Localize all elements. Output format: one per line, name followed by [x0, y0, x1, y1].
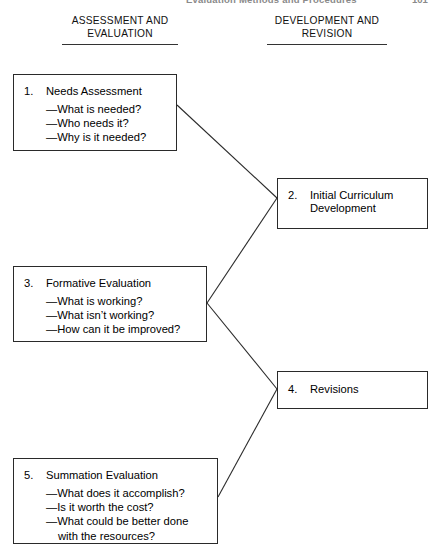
- node-bullet: —Is it worth the cost?: [46, 500, 209, 514]
- node-bullet-list: —What is working? —What isn’t working? —…: [24, 294, 198, 337]
- node-summation-evaluation: 5. Summation Evaluation —What does it ac…: [13, 458, 218, 544]
- node-bullet: —What could be better done: [46, 514, 209, 528]
- node-bullet: —What isn’t working?: [46, 308, 198, 322]
- column-header-assessment-evaluation: ASSESSMENT AND EVALUATION: [46, 14, 194, 45]
- node-heading: 4. Revisions: [288, 383, 421, 395]
- column-header-line-2: EVALUATION: [46, 27, 194, 40]
- column-header-line-2: REVISION: [252, 27, 402, 40]
- connector-formative-evaluation-to-revisions: [207, 303, 277, 389]
- node-bullet: —Who needs it?: [46, 116, 168, 130]
- node-title: Initial Curriculum: [310, 189, 421, 201]
- node-heading: 3. Formative Evaluation: [24, 276, 198, 291]
- column-header-development-revision: DEVELOPMENT AND REVISION: [252, 14, 402, 45]
- node-bullet-list: —What does it accomplish? —Is it worth t…: [24, 486, 209, 543]
- node-bullet-list: —What is needed? —Who needs it? —Why is …: [24, 102, 168, 145]
- node-heading: 2. Initial Curriculum: [288, 189, 421, 201]
- node-bullet: —What does it accomplish?: [46, 486, 209, 500]
- node-revisions: 4. Revisions: [277, 371, 428, 409]
- node-formative-evaluation: 3. Formative Evaluation —What is working…: [13, 266, 207, 342]
- running-head-page-number: 101: [412, 0, 428, 5]
- connector-formative-evaluation-to-initial-curriculum: [207, 198, 277, 303]
- diagram-page: Evaluation Methods and Procedures 101 AS…: [0, 0, 442, 544]
- node-bullet: —What is needed?: [46, 102, 168, 116]
- node-title: Needs Assessment: [46, 84, 168, 99]
- node-number: 2.: [288, 189, 310, 201]
- node-number: 1.: [24, 84, 46, 99]
- node-heading: 1. Needs Assessment: [24, 84, 168, 99]
- column-header-rule: [62, 44, 178, 45]
- node-title-continuation: Development: [288, 201, 421, 216]
- node-initial-curriculum-development: 2. Initial Curriculum Development: [277, 178, 428, 229]
- node-title: Revisions: [310, 383, 421, 395]
- node-number: 4.: [288, 383, 310, 395]
- node-title: Summation Evaluation: [46, 468, 209, 483]
- node-needs-assessment: 1. Needs Assessment —What is needed? —Wh…: [13, 74, 177, 151]
- column-header-line-1: DEVELOPMENT AND: [252, 14, 402, 27]
- node-number: 3.: [24, 276, 46, 291]
- connector-summation-evaluation-to-revisions: [218, 389, 277, 497]
- connector-needs-assessment-to-initial-curriculum: [177, 105, 277, 198]
- node-bullet-continuation: with the resources?: [46, 529, 209, 543]
- running-head: Evaluation Methods and Procedures 101: [0, 0, 442, 5]
- running-head-title: Evaluation Methods and Procedures: [186, 0, 357, 5]
- node-bullet: —What is working?: [46, 294, 198, 308]
- node-bullet: —How can it be improved?: [46, 322, 198, 336]
- node-heading: 5. Summation Evaluation: [24, 468, 209, 483]
- node-title: Formative Evaluation: [46, 276, 198, 291]
- column-header-rule: [267, 44, 387, 45]
- column-header-line-1: ASSESSMENT AND: [46, 14, 194, 27]
- node-bullet: —Why is it needed?: [46, 130, 168, 144]
- node-number: 5.: [24, 468, 46, 483]
